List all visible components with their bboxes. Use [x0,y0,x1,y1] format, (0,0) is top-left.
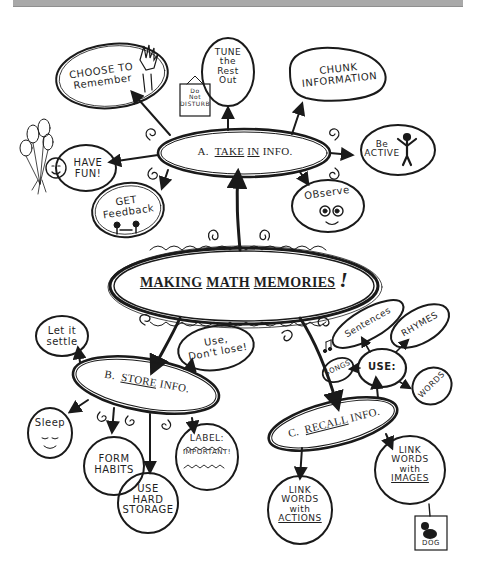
node-form-habits: FORM HABITS [88,454,140,475]
node-link-words-images: LINK WORDS with IMAGES [384,446,436,484]
central-word-math: MATH [206,275,250,290]
central-exclaim: ! [339,267,348,292]
node-text-line: HABITS [88,465,140,476]
node-text-line: FUN! [70,169,106,180]
central-word-memories: MEMORIES [254,275,336,290]
node-text-line: HAVE [70,158,106,169]
node-text-line: DOG [415,540,447,547]
node-be-active: Be ACTIVE [364,140,400,159]
branch-b-letter: B. [104,368,117,382]
do-not-disturb-sign: Do Not DISTURB [180,88,210,107]
node-let-it-settle: Let it settle [42,326,82,347]
node-text-line: ACTIVE [364,149,400,158]
node-text-line: USE [120,484,176,495]
node-text-line: Out [208,76,248,85]
node-text-line: ACTIONS [274,514,326,523]
central-node: MAKING MATH MEMORIES ! [132,268,356,291]
node-link-words-actions: LINK WORDS with ACTIONS [274,486,326,524]
node-text-line: LABEL: [180,434,234,443]
node-text-line: STORAGE [120,505,176,516]
branch-a-word-in: IN [247,145,259,157]
branch-c-letter: C. [287,425,300,439]
node-sleep: Sleep [34,418,66,429]
branch-a-take-in-info: A. TAKE IN INFO. [180,146,310,158]
node-text-line: USE: [362,362,402,373]
node-text-line: Sleep [34,418,66,429]
branch-a-word-info: INFO. [263,145,293,157]
node-use-hard-storage: USE HARD STORAGE [120,484,176,516]
node-text-line: Let it [42,326,82,337]
node-tune-the-rest-out: TUNE the Rest Out [208,48,248,86]
node-text-line: settle [42,337,82,348]
node-use-hub: USE: [362,362,402,373]
node-text-line: IMPORTANT! [180,449,234,456]
central-word-making: MAKING [140,275,202,290]
sign-text-line: DISTURB [180,101,210,107]
branch-a-letter: A. [197,145,208,157]
branch-a-word-take: TAKE [215,145,245,157]
node-text-line: FORM [88,454,140,465]
node-have-fun: HAVE FUN! [70,158,106,179]
dog-picture-label: DOG [415,540,447,547]
node-label-important: LABEL: IMPORTANT! [180,434,234,457]
node-text-line: IMAGES [384,474,436,483]
